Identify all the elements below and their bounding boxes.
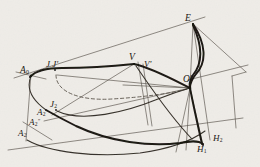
- label-A2-lower: A2: [18, 129, 27, 139]
- label-V: V: [129, 53, 135, 63]
- figure-canvas: A0 J J' A2 J2 A2″ A2 V V' E O': [0, 0, 260, 167]
- label-H2: H2: [213, 134, 223, 144]
- label-E: E: [185, 14, 191, 24]
- label-H1: H1: [197, 145, 207, 155]
- point-J: [54, 69, 56, 71]
- label-A0: A0: [20, 66, 29, 76]
- point-A0: [30, 75, 32, 77]
- label-V-prime: V': [144, 60, 151, 69]
- label-J2: J2: [50, 100, 57, 110]
- label-O-prime: O': [183, 75, 192, 85]
- point-O-prime: [189, 87, 192, 90]
- point-V: [133, 63, 135, 65]
- label-A2-double-prime: A2″: [29, 118, 40, 128]
- point-E: [192, 23, 194, 25]
- label-J-Jprime: J J': [46, 60, 58, 69]
- label-A2: A2: [37, 108, 46, 118]
